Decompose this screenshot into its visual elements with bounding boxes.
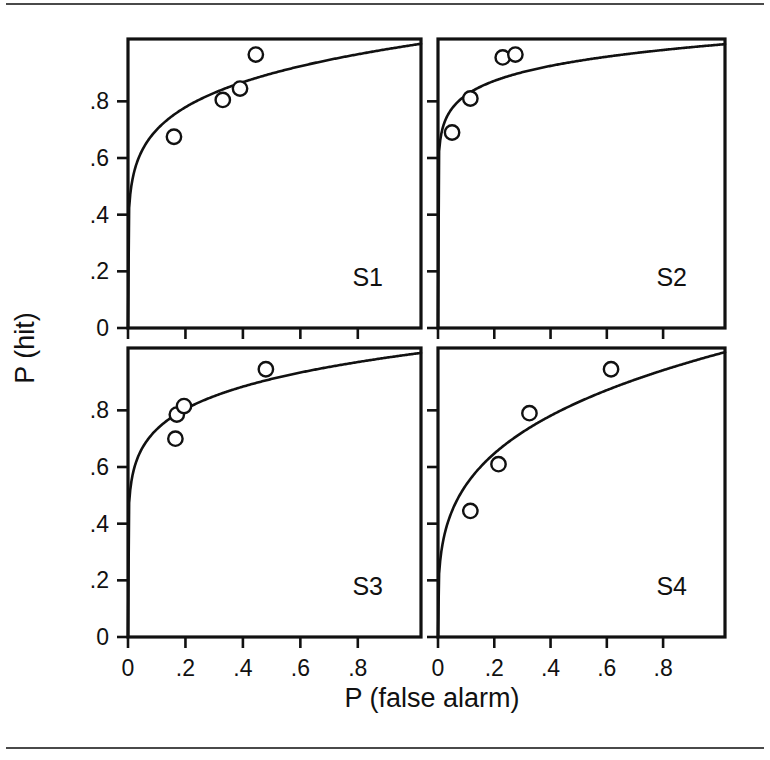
x-tick-label: .4 — [541, 655, 560, 681]
data-point-marker — [604, 362, 618, 376]
y-tick-label: .2 — [90, 567, 109, 593]
y-tick-label: .6 — [90, 454, 109, 480]
y-tick-label: .8 — [90, 88, 109, 114]
x-tick-label: .8 — [654, 655, 673, 681]
x-tick-label: .2 — [485, 655, 504, 681]
roc-figure-canvas: 0.2.4.6.80.2.4.6.80.2.4.6.80.2.4.6.8 S1S… — [0, 0, 770, 760]
data-point-marker — [249, 47, 263, 61]
x-tick-label: .4 — [233, 655, 252, 681]
y-tick-label: .4 — [90, 202, 109, 228]
data-point-marker — [508, 47, 522, 61]
roc-figure: 0.2.4.6.80.2.4.6.80.2.4.6.80.2.4.6.8 S1S… — [0, 0, 770, 760]
y-axis-title: P (hit) — [10, 312, 40, 384]
y-tick-label: .2 — [90, 258, 109, 284]
data-point-marker — [463, 91, 477, 105]
x-tick-label: .2 — [176, 655, 195, 681]
figure-background — [0, 0, 770, 760]
data-point-marker — [522, 406, 536, 420]
data-point-marker — [259, 362, 273, 376]
data-point-marker — [491, 457, 505, 471]
data-point-marker — [168, 431, 182, 445]
panel-label-s3: S3 — [352, 572, 383, 600]
y-tick-label: .6 — [90, 145, 109, 171]
panel-label-s2: S2 — [656, 263, 687, 291]
y-tick-label: .4 — [90, 511, 109, 537]
x-tick-label: .8 — [348, 655, 367, 681]
data-point-marker — [445, 125, 459, 139]
panel-label-s1: S1 — [352, 263, 383, 291]
data-point-marker — [233, 81, 247, 95]
data-point-marker — [167, 130, 181, 144]
y-tick-label: 0 — [96, 315, 109, 341]
data-point-marker — [177, 399, 191, 413]
y-tick-label: .8 — [90, 397, 109, 423]
x-tick-label: 0 — [432, 655, 445, 681]
y-tick-label: 0 — [96, 624, 109, 650]
panel-label-s4: S4 — [656, 572, 687, 600]
data-point-marker — [216, 93, 230, 107]
x-tick-label: 0 — [122, 655, 135, 681]
data-point-marker — [463, 504, 477, 518]
x-axis-title: P (false alarm) — [344, 683, 519, 713]
x-tick-label: .6 — [597, 655, 616, 681]
x-tick-label: .6 — [291, 655, 310, 681]
